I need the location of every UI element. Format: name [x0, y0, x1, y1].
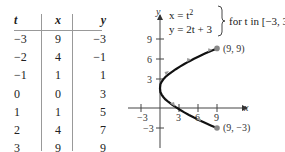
x-tick-label: −3 [137, 112, 148, 123]
y-tick-label: 3 [147, 74, 152, 85]
parametric-graph: −3 3 6 9 9 6 3 −3 x y (9, 9) (9, −3) x =… [0, 0, 285, 152]
y-tick-label: 9 [147, 34, 152, 45]
endpoint-top-label: (9, 9) [223, 43, 245, 55]
y-tick-label: 6 [147, 54, 152, 65]
endpoint-bottom [214, 125, 220, 131]
x-axis-label: x [243, 102, 249, 113]
domain-text: for t in [−3, 3] [229, 15, 285, 27]
y-axis-label: y [155, 6, 161, 17]
endpoint-bottom-label: (9, −3) [223, 122, 250, 134]
endpoint-top [214, 46, 220, 52]
brace [218, 6, 225, 36]
x-tick-label: 9 [214, 112, 219, 123]
y-tick-label: −3 [143, 123, 154, 134]
equation-x: x = t2 [169, 8, 193, 21]
x-tick-label: 3 [176, 112, 181, 123]
equation-y: y = 2t + 3 [169, 23, 212, 35]
